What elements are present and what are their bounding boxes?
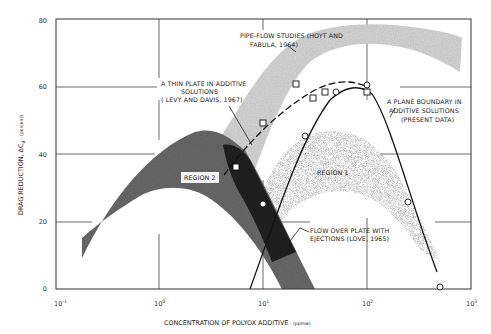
region-2-label: REGION 2 bbox=[184, 174, 216, 181]
svg-text:102: 102 bbox=[362, 299, 373, 308]
pipe-flow-label-line2: FABULA, 1964) bbox=[250, 41, 298, 48]
svg-text:101: 101 bbox=[258, 299, 269, 308]
svg-text:0: 0 bbox=[43, 285, 47, 293]
drag-reduction-chart: PIPE-FLOW STUDIES (HOYT AND FABULA, 1964… bbox=[0, 0, 491, 334]
ejections-label-line2: EJECTIONS (LOVE, 1965) bbox=[310, 235, 389, 243]
x-axis-title: CONCENTRATION OF POLYOX ADDITIVE - (ppmw… bbox=[164, 319, 311, 327]
thin-plate-label-line3: ( LEVY AND DAVIS, 1967) bbox=[161, 96, 243, 103]
svg-text:20: 20 bbox=[39, 218, 47, 226]
svg-text:103: 103 bbox=[466, 299, 477, 308]
ejections-label-line1: FLOW OVER PLATE WITH bbox=[310, 227, 390, 234]
svg-text:100: 100 bbox=[154, 299, 165, 308]
plane-boundary-label-line1: A PLANE BOUNDARY IN bbox=[387, 98, 462, 105]
y-axis-title: DRAG REDUCTION, ΔCd - (percent) bbox=[17, 115, 26, 215]
x-axis-ticks: 10-1 100 101 102 103 bbox=[54, 299, 477, 308]
plane-boundary-label-line3: (PRESENT DATA) bbox=[401, 116, 454, 123]
thin-plate-label-line2: SOLUTIONS bbox=[181, 88, 218, 95]
region-1-label: REGION 1 bbox=[317, 169, 349, 176]
svg-text:10-1: 10-1 bbox=[54, 299, 67, 308]
svg-text:80: 80 bbox=[39, 17, 47, 25]
pipe-flow-label-line1: PIPE-FLOW STUDIES (HOYT AND bbox=[240, 32, 343, 39]
y-axis-ticks: 80 60 40 20 0 bbox=[39, 17, 47, 293]
thin-plate-label-line1: A THIN PLATE IN ADDITIVE bbox=[161, 80, 246, 87]
plane-boundary-label-line2: ADDITIVE SOLUTIONS bbox=[389, 107, 459, 114]
svg-text:40: 40 bbox=[39, 151, 47, 159]
svg-text:60: 60 bbox=[39, 83, 47, 91]
